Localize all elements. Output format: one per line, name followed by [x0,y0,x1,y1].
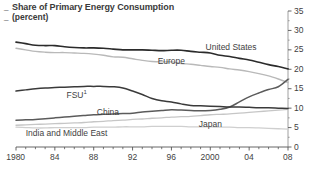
series-label-fsu: FSU1 [67,89,87,100]
y-tick-label: 20 [294,64,303,74]
series-line-europe [16,48,288,82]
y-tick-label: 0 [294,142,299,152]
x-tick-label: 1980 [6,152,25,162]
series-label-india-and-middle-east: India and Middle East [26,128,108,138]
y-tick-label: 15 [294,83,303,93]
series-label-japan: Japan [199,119,222,129]
chart-container: _ Share of Primary Energy Consumption _ … [0,0,310,171]
x-tick-label: 04 [244,152,253,162]
series-label-united-states: United States [206,42,257,52]
plot-area [0,0,310,171]
y-tick-label: 25 [294,44,303,54]
y-tick-label: 35 [294,6,303,16]
x-tick-label: 92 [128,152,137,162]
series-label-china: China [97,107,119,117]
x-tick-label: 84 [50,152,59,162]
x-tick-label: 2000 [200,152,219,162]
series-label-europe: Europe [158,56,185,66]
y-tick-label: 10 [294,103,303,113]
y-tick-label: 5 [294,122,299,132]
x-tick-label: 08 [283,152,292,162]
series-line-china [16,79,288,120]
x-tick-label: 96 [167,152,176,162]
y-tick-label: 30 [294,25,303,35]
footnote-marker: 1 [84,89,87,95]
x-tick-label: 88 [89,152,98,162]
